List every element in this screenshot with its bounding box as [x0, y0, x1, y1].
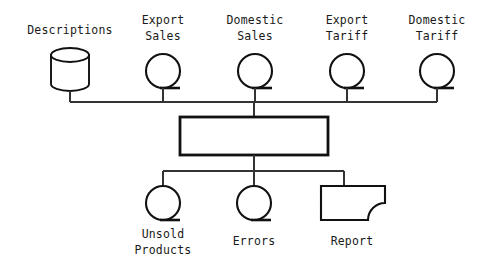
magnetic-tape-icon-export-sales	[146, 54, 180, 88]
magnetic-tape-icon-domestic-tariff	[420, 54, 454, 88]
cylinder-storage-icon	[51, 48, 89, 91]
output-connector-bus	[163, 155, 344, 186]
input-connector-bus	[70, 88, 437, 117]
label-errors: Errors	[233, 234, 276, 248]
diagram-canvas: Descriptions Export Sales Domestic Sales…	[0, 0, 477, 268]
label-export-tariff-line2: Tariff	[326, 29, 369, 43]
magnetic-tape-icon-export-tariff	[330, 54, 364, 88]
label-domestic-sales-line1: Domestic	[227, 13, 284, 27]
label-domestic-tariff-line2: Tariff	[416, 29, 459, 43]
label-export-sales-line1: Export	[142, 13, 185, 27]
label-unsold-products-line2: Products	[135, 243, 192, 257]
magnetic-tape-icon-errors	[237, 186, 271, 220]
label-domestic-tariff-line1: Domestic	[409, 13, 466, 27]
magnetic-tape-icon-unsold-products	[146, 186, 180, 220]
flow-diagram: Descriptions Export Sales Domestic Sales…	[0, 0, 477, 268]
label-unsold-products-line1: Unsold	[142, 227, 185, 241]
document-report-icon	[321, 186, 385, 220]
label-export-tariff-line1: Export	[326, 13, 369, 27]
process-box-icon	[180, 117, 328, 155]
label-report: Report	[331, 234, 374, 248]
label-descriptions: Descriptions	[27, 23, 112, 37]
label-export-sales-line2: Sales	[145, 29, 181, 43]
magnetic-tape-icon-domestic-sales	[238, 54, 272, 88]
label-domestic-sales-line2: Sales	[237, 29, 273, 43]
